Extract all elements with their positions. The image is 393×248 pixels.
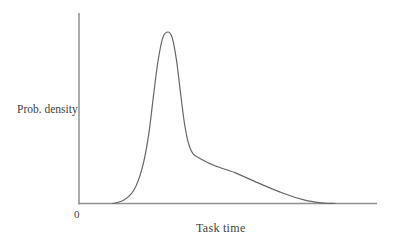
x-axis-label: Task time: [196, 222, 246, 234]
task-time-density-figure: Prob. density 0 Task time: [0, 0, 393, 248]
plot-area: [0, 0, 393, 248]
origin-tick-label: 0: [74, 209, 80, 220]
y-axis-label: Prob. density: [17, 104, 78, 116]
density-curve: [113, 32, 335, 204]
